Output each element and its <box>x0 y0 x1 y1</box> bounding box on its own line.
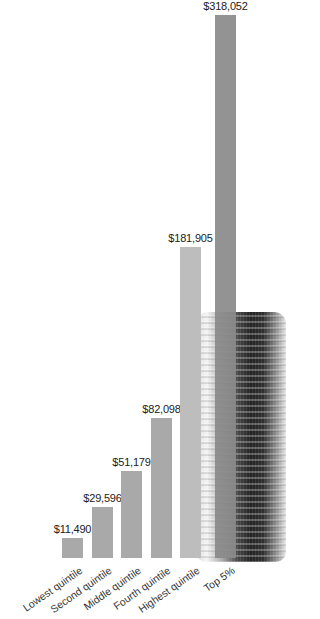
bar-4 <box>180 247 201 558</box>
value-label: $29,596 <box>83 492 121 504</box>
category-label: Top 5% <box>201 564 237 594</box>
bar-3 <box>151 418 172 558</box>
value-label: $51,179 <box>112 456 150 468</box>
bar-1 <box>92 507 113 558</box>
value-label: $181,905 <box>168 232 212 244</box>
bar-2 <box>121 471 142 558</box>
value-label: $11,490 <box>54 523 92 535</box>
bar-5 <box>215 15 236 558</box>
coin-stack-image <box>196 312 286 562</box>
value-label: $318,052 <box>203 0 247 12</box>
value-label: $82,098 <box>142 403 180 415</box>
bar-0 <box>62 538 83 558</box>
